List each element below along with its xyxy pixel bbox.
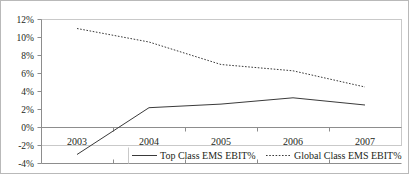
y-tick-label: -2% — [18, 141, 34, 151]
x-tick-label: 2003 — [67, 136, 87, 147]
y-tick-label: 0% — [21, 123, 34, 133]
chart-figure: 12% 10% 8% 6% 4% 2% 0% -2% -4% 2003 2004 — [0, 0, 409, 174]
y-tick-label: 6% — [21, 69, 34, 79]
y-axis-ticks — [38, 20, 42, 164]
y-tick-label: 4% — [21, 87, 34, 97]
x-tick-label: 2007 — [355, 136, 375, 147]
series-global-class-ems-ebit — [77, 29, 365, 88]
line-chart-canvas: 12% 10% 8% 6% 4% 2% 0% -2% -4% 2003 2004 — [1, 1, 410, 175]
x-tick-label: 2004 — [139, 136, 159, 147]
y-tick-label: -4% — [18, 159, 34, 169]
y-tick-label: 12% — [17, 15, 35, 25]
chart-legend: Top Class EMS EBIT% Global Class EMS EBI… — [129, 148, 402, 164]
y-axis-tick-labels: 12% 10% 8% 6% 4% 2% 0% -2% -4% — [17, 15, 35, 169]
x-tick-label: 2006 — [283, 136, 303, 147]
x-tick-label: 2005 — [211, 136, 231, 147]
y-tick-label: 8% — [21, 51, 34, 61]
legend-label-top-class: Top Class EMS EBIT% — [160, 150, 256, 161]
legend-label-global-class: Global Class EMS EBIT% — [294, 150, 402, 161]
y-tick-label: 2% — [21, 105, 34, 115]
y-tick-label: 10% — [17, 33, 35, 43]
plot-area-border — [42, 20, 402, 146]
